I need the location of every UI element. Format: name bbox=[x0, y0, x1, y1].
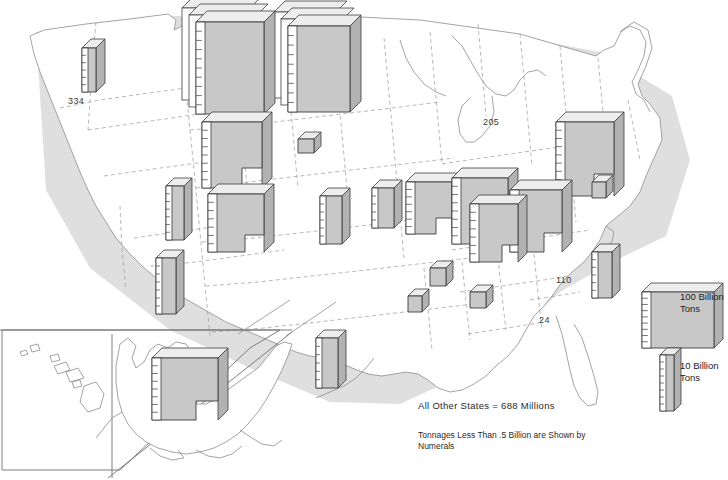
legend-label-10-billion-tons: 10 Billion Tons bbox=[680, 360, 719, 384]
note-numerals-explanation: Tonnages Less Than .5 Billion are Shown … bbox=[418, 430, 586, 452]
legend-label-100-billion-tons: 100 Billion Tons bbox=[680, 291, 724, 315]
note-all-other-states: All Other States = 688 Millions bbox=[418, 400, 555, 412]
slab-legend-10 bbox=[660, 348, 681, 411]
legend-symbol-layer bbox=[0, 0, 728, 480]
coal-reserves-map-figure: .outline{fill:#ffffff;stroke:#8d8d8d;str… bbox=[0, 0, 728, 480]
